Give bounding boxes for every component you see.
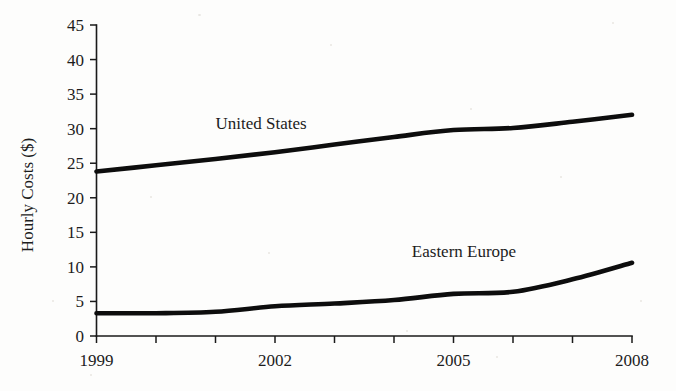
y-tick-label-0: 0 (76, 327, 85, 346)
x-axis-tick-marks (97, 336, 633, 343)
x-tick-label-2008: 2008 (615, 351, 649, 370)
y-tick-label-15: 15 (67, 223, 84, 242)
y-tick-label-40: 40 (67, 51, 84, 70)
x-axis-tick-labels: 1999200220052008 (80, 351, 650, 370)
series-line-united-states (97, 115, 633, 172)
y-tick-label-45: 45 (67, 16, 84, 35)
y-axis-tick-marks (90, 25, 97, 336)
x-tick-label-2005: 2005 (437, 351, 471, 370)
y-axis-title-group: Hourly Costs ($) (18, 138, 37, 252)
y-tick-label-10: 10 (67, 258, 84, 277)
x-tick-label-1999: 1999 (80, 351, 114, 370)
y-axis-title: Hourly Costs ($) (18, 138, 37, 252)
y-tick-label-20: 20 (67, 189, 84, 208)
line-chart: Hourly Costs ($) 051015202530354045 1999… (0, 0, 676, 391)
series-label-united-states: United States (216, 114, 307, 133)
y-tick-label-5: 5 (76, 292, 85, 311)
y-tick-label-30: 30 (67, 120, 84, 139)
y-axis-tick-labels: 051015202530354045 (67, 16, 84, 346)
x-tick-label-2002: 2002 (258, 351, 292, 370)
series-label-eastern-europe: Eastern Europe (412, 242, 516, 261)
y-tick-label-25: 25 (67, 154, 84, 173)
chart-figure: Hourly Costs ($) 051015202530354045 1999… (0, 0, 676, 391)
y-tick-label-35: 35 (67, 85, 84, 104)
series-line-eastern-europe (97, 263, 633, 314)
